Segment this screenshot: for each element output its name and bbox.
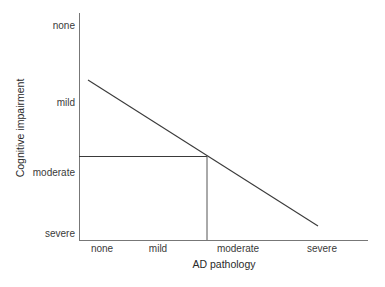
y-axis-title: Cognitive impairment [14,79,26,178]
x-tick-label: moderate [217,243,260,254]
x-tick-label: mild [149,243,167,254]
x-tick-label: severe [307,243,337,254]
y-tick-label: severe [45,228,75,239]
y-tick-label: moderate [33,167,76,178]
y-tick-label: mild [57,97,75,108]
x-axis-title: AD pathology [192,258,256,270]
x-tick-label: none [91,243,114,254]
chart: none mild moderate severe none mild mode… [0,0,385,287]
y-tick-label: none [53,20,76,31]
trend-line [88,80,318,226]
